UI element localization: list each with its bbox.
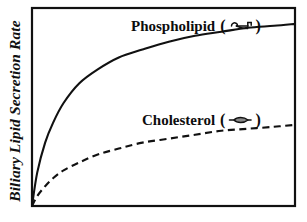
series-label-phospholipid-text: Phospholipid [131, 19, 215, 34]
open-paren: ( [220, 18, 225, 34]
chart-figure: Biliary Lipid Secretion Rate Phospholipi… [0, 0, 307, 222]
series-label-cholesterol-text: Cholesterol [142, 113, 215, 128]
plot-frame [32, 8, 295, 206]
close-paren: ) [256, 18, 261, 34]
cholesterol-molecule-icon [227, 113, 253, 127]
close-paren: ) [255, 112, 260, 128]
phospholipid-molecule-icon [228, 19, 254, 33]
series-label-phospholipid: Phospholipid ( ) [131, 18, 261, 34]
series-label-cholesterol: Cholesterol ( ) [142, 112, 261, 128]
open-paren: ( [220, 112, 225, 128]
